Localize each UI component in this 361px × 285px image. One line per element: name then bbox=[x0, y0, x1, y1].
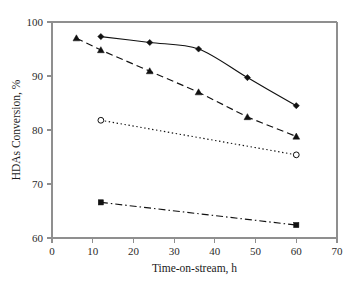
data-point-open-circle-marker bbox=[98, 117, 104, 123]
y-tick-label: 70 bbox=[32, 178, 44, 190]
chart-background bbox=[0, 0, 361, 285]
x-axis-title: Time-on-stream, h bbox=[152, 262, 237, 275]
y-tick-label: 100 bbox=[27, 16, 44, 28]
x-tick-label: 30 bbox=[169, 245, 181, 257]
data-point-open-circle-marker bbox=[293, 152, 299, 158]
x-tick-label: 10 bbox=[87, 245, 99, 257]
data-point-square-marker bbox=[98, 200, 103, 205]
y-tick-label: 60 bbox=[32, 232, 44, 244]
y-tick-label: 90 bbox=[32, 70, 44, 82]
line-chart-plot: 010203040506070 60708090100 Time-on-stre… bbox=[0, 0, 361, 285]
y-axis-title: HDAs Conversion, % bbox=[10, 79, 23, 180]
x-tick-label: 40 bbox=[209, 245, 221, 257]
y-tick-label: 80 bbox=[32, 124, 44, 136]
x-tick-label: 70 bbox=[332, 245, 344, 257]
x-tick-label: 60 bbox=[291, 245, 303, 257]
x-tick-label: 20 bbox=[128, 245, 140, 257]
x-tick-label: 0 bbox=[49, 245, 55, 257]
x-tick-label: 50 bbox=[250, 245, 262, 257]
data-point-square-marker bbox=[294, 222, 299, 227]
chart-figure: 010203040506070 60708090100 Time-on-stre… bbox=[0, 0, 361, 285]
